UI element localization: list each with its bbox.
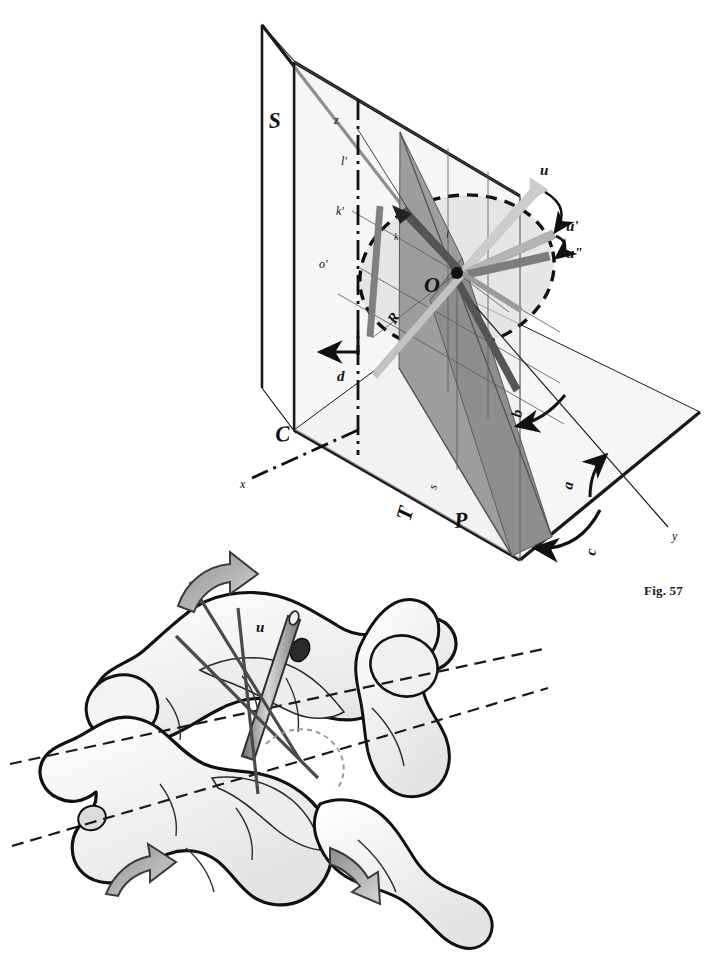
plane-C-label: C <box>274 421 292 447</box>
figure-58-canvas: u <box>0 548 560 958</box>
vector-u-head <box>530 178 548 199</box>
arc-u-prime-to-u-double-prime <box>556 236 565 258</box>
plane-S-label: S <box>268 107 282 133</box>
plane-T-label: T <box>391 502 419 523</box>
line-l-label: l <box>446 229 449 240</box>
axis-z-label: z <box>333 113 339 127</box>
line-k-label: k <box>394 231 399 242</box>
line-l-prime-label: l' <box>341 154 347 168</box>
vector-u-prime-label: u' <box>566 218 579 234</box>
lower-right-process <box>314 800 492 949</box>
figure-58: u Fig. 58 <box>0 548 560 958</box>
line-k-prime-label: k' <box>336 204 344 218</box>
plane-S-face <box>262 25 295 432</box>
angle-c-label: c <box>582 547 599 557</box>
lower-vertebra <box>40 717 332 905</box>
figure-plate-page: S C T R <box>0 0 716 958</box>
right-lateral-mass <box>356 600 450 797</box>
screw-axis-label: u <box>256 619 264 635</box>
figure-57-canvas: S C T R <box>0 0 716 610</box>
figure-57-caption: Fig. 57 <box>644 583 683 599</box>
axis-y-label: y <box>671 529 678 543</box>
point-o-prime-label: o' <box>319 257 328 271</box>
axis-x-label: x <box>239 477 246 491</box>
figure-57: S C T R <box>0 0 716 610</box>
arc-u-to-u-prime <box>545 192 562 232</box>
vector-u-double-prime-label: u" <box>566 245 583 261</box>
origin-dot <box>451 267 463 279</box>
lower-right-process-body <box>314 800 492 949</box>
origin-label: O <box>424 272 440 297</box>
vector-u-label: u <box>540 162 548 178</box>
angle-d-label: d <box>337 368 345 384</box>
right-mass-body <box>356 600 450 797</box>
